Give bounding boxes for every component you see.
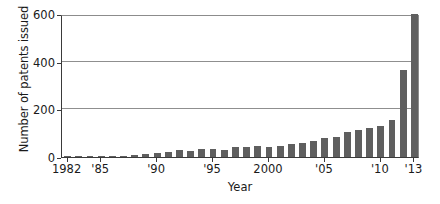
y-axis-tick-mark (57, 15, 61, 16)
y-axis-tick-mark (57, 110, 61, 111)
x-axis-tick-label: '05 (315, 162, 333, 176)
x-axis-tick-label: 1982 (52, 162, 81, 176)
bar-series (62, 16, 418, 157)
bar (176, 150, 183, 157)
y-axis-tick-label: 0 (21, 152, 55, 164)
bar (310, 141, 317, 157)
bar (131, 155, 138, 157)
x-axis-tick-label: '85 (91, 162, 109, 176)
bar (333, 137, 340, 157)
x-axis-tick-label: '10 (371, 162, 389, 176)
bar (187, 151, 194, 157)
bar (232, 147, 239, 157)
x-axis-tick-label: '13 (405, 162, 423, 176)
bar (142, 154, 149, 157)
x-axis-tick-label: '95 (203, 162, 221, 176)
bar (165, 152, 172, 157)
bar (366, 128, 373, 157)
bar (344, 132, 351, 157)
bar (321, 138, 328, 157)
bar (198, 149, 205, 157)
y-axis-tick-label: 400 (21, 57, 55, 69)
bar (75, 156, 82, 157)
bar (221, 150, 228, 157)
patents-bar-chart: Number of patents issued 0200400600 1982… (0, 0, 440, 204)
bar (64, 156, 71, 157)
x-axis-title: Year (61, 180, 419, 194)
y-axis-tick-label: 600 (21, 9, 55, 21)
bar (98, 156, 105, 157)
bar (154, 153, 161, 157)
bar (299, 143, 306, 157)
y-axis-tick-label: 200 (21, 104, 55, 116)
y-axis-tick-mark (57, 158, 61, 159)
y-axis-tick-mark (57, 63, 61, 64)
y-axis-title: Number of patents issued (16, 0, 32, 158)
bar (243, 147, 250, 157)
bar (266, 147, 273, 157)
bar (120, 156, 127, 157)
bar (400, 70, 407, 157)
bar (389, 120, 396, 157)
bar (277, 146, 284, 157)
bar (109, 156, 116, 157)
bar (377, 126, 384, 157)
bar (254, 146, 261, 157)
plot-area (61, 15, 419, 158)
x-axis-tick-label: '90 (147, 162, 165, 176)
bar (411, 14, 418, 157)
x-axis-tick-label: 2000 (253, 162, 282, 176)
bar (288, 144, 295, 157)
bar (355, 130, 362, 157)
bar (210, 149, 217, 157)
bar (87, 156, 94, 157)
